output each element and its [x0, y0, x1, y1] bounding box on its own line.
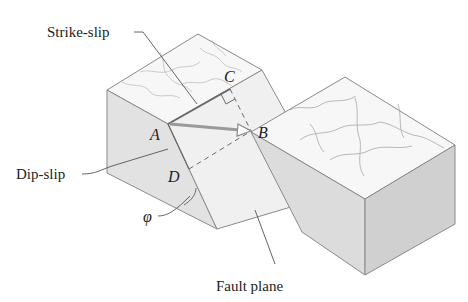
point-c-label: C	[224, 68, 235, 85]
point-a-label: A	[149, 126, 160, 143]
strike-slip-label: Strike-slip	[47, 24, 110, 40]
fault-plane-leader	[255, 210, 275, 264]
dip-slip-label: Dip-slip	[16, 166, 65, 182]
point-b-label: B	[258, 124, 268, 141]
fault-plane-label: Fault plane	[216, 278, 283, 294]
point-d-label: D	[167, 168, 180, 185]
angle-phi-label: φ	[143, 208, 152, 226]
fault-diagram: Strike-slip Dip-slip Fault plane φ A B C…	[0, 0, 468, 302]
